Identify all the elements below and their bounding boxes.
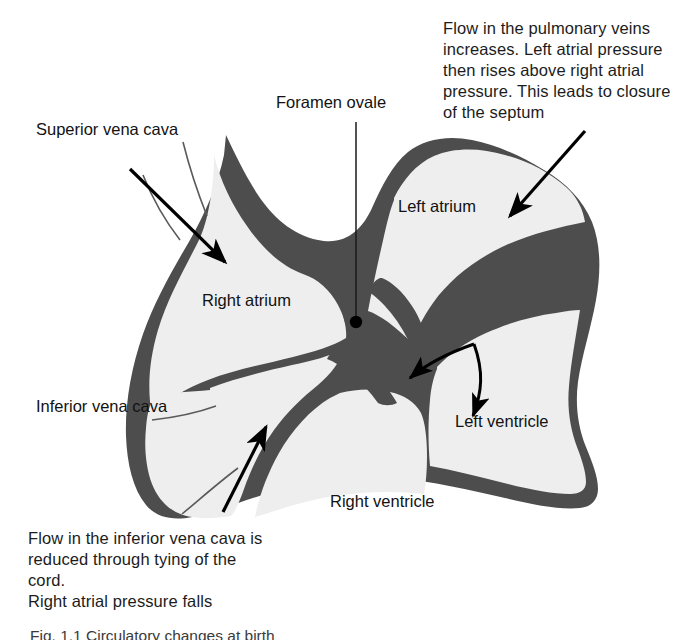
inferior-vena-cava-annotation: Flow in the inferior vena cava is reduce… <box>28 528 278 612</box>
label-right-ventricle: Right ventricle <box>330 491 435 511</box>
figure-caption: Fig. 1.1 Circulatory changes at birth <box>30 626 670 640</box>
label-right-atrium: Right atrium <box>202 290 291 310</box>
label-left-atrium: Left atrium <box>398 196 476 216</box>
label-inferior-vena-cava: Inferior vena cava <box>36 396 167 416</box>
foramen-ovale-dot <box>350 316 362 328</box>
svc-outer-wall <box>183 142 207 216</box>
svc-inner-wall <box>143 175 180 240</box>
figure-root: Flow in the pulmonary veins increases. L… <box>0 0 687 640</box>
label-foramen-ovale: Foramen ovale <box>276 92 386 112</box>
label-left-ventricle: Left ventricle <box>455 411 549 431</box>
label-superior-vena-cava: Superior vena cava <box>36 119 178 139</box>
pulmonary-flow-annotation: Flow in the pulmonary veins increases. L… <box>443 18 683 123</box>
